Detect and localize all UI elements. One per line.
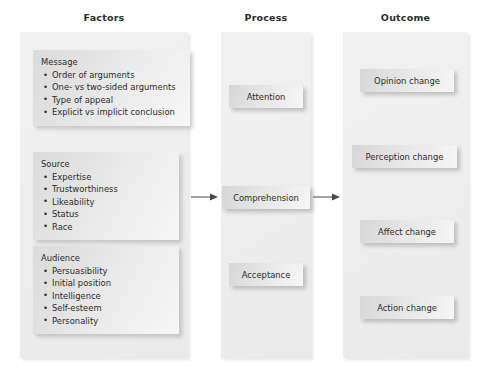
- factor-group-audience: Audience Persuasibility Initial position…: [33, 246, 179, 334]
- factor-group-title: Source: [41, 158, 171, 170]
- outcome-node-opinion-change: Opinion change: [360, 69, 454, 92]
- list-item: Race: [41, 221, 171, 233]
- list-item: Explicit vs implicit conclusion: [41, 106, 182, 118]
- outcome-node-action-change: Action change: [360, 296, 454, 319]
- process-node-acceptance: Acceptance: [229, 263, 303, 286]
- list-item: Expertise: [41, 171, 171, 183]
- factor-group-list: Expertise Trustworthiness Likeability St…: [41, 171, 171, 233]
- factor-group-message: Message Order of arguments One- vs two-s…: [33, 50, 190, 126]
- factor-group-title: Message: [41, 56, 182, 68]
- list-item: Intelligence: [41, 290, 171, 302]
- process-node-attention: Attention: [229, 85, 303, 108]
- list-item: Self-esteem: [41, 302, 171, 314]
- list-item: Type of appeal: [41, 94, 182, 106]
- list-item: Initial position: [41, 277, 171, 289]
- column-header-factors: Factors: [20, 12, 188, 23]
- list-item: One- vs two-sided arguments: [41, 81, 182, 93]
- outcome-node-affect-change: Affect change: [360, 220, 454, 243]
- list-item: Personality: [41, 315, 171, 327]
- list-item: Status: [41, 208, 171, 220]
- factor-group-title: Audience: [41, 252, 171, 264]
- arrow-right-icon: [191, 192, 219, 202]
- list-item: Persuasibility: [41, 265, 171, 277]
- factor-group-list: Persuasibility Initial position Intellig…: [41, 265, 171, 327]
- arrow-right-icon: [313, 192, 341, 202]
- list-item: Likeability: [41, 196, 171, 208]
- column-header-process: Process: [221, 12, 311, 23]
- list-item: Order of arguments: [41, 69, 182, 81]
- process-node-comprehension: Comprehension: [222, 186, 310, 209]
- column-header-outcome: Outcome: [343, 12, 468, 23]
- outcome-node-perception-change: Perception change: [352, 145, 457, 168]
- factor-group-source: Source Expertise Trustworthiness Likeabi…: [33, 152, 179, 240]
- factor-group-list: Order of arguments One- vs two-sided arg…: [41, 69, 182, 119]
- list-item: Trustworthiness: [41, 183, 171, 195]
